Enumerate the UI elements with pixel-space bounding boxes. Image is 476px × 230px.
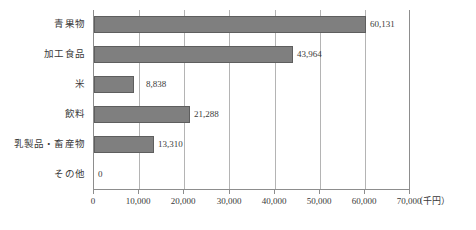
- bar-row: 13,310: [94, 130, 409, 160]
- tick-mark: [229, 190, 230, 194]
- category-label-kakoshokuhin: 加工食品: [0, 49, 85, 59]
- tick-mark: [138, 190, 139, 194]
- bar-kome: [94, 76, 134, 93]
- tick-mark: [319, 190, 320, 194]
- x-tick-label-20000: 20,000: [171, 195, 196, 207]
- bar-kakoshokuhin: [94, 46, 293, 63]
- x-tick-label-0: 0: [91, 195, 96, 207]
- bar-value-sonota: 0: [94, 167, 103, 182]
- bar-value-kakoshokuhin: 43,964: [293, 47, 322, 62]
- x-tick-label-10000: 10,000: [126, 195, 151, 207]
- plot-area: 60,131 43,964 8,838 21,288 13,310 0: [93, 10, 410, 190]
- category-label-seikabutsu: 青果物: [0, 19, 85, 29]
- bar-row: 21,288: [94, 100, 409, 130]
- tick-mark: [409, 190, 410, 194]
- bar-value-inryo: 21,288: [190, 107, 219, 122]
- bar-row: 0: [94, 160, 409, 190]
- x-tick-label-50000: 50,000: [307, 195, 332, 207]
- tick-mark: [364, 190, 365, 194]
- bar-inryo: [94, 106, 190, 123]
- x-tick-label-40000: 40,000: [262, 195, 287, 207]
- bar-value-nyuseihin: 13,310: [154, 137, 183, 152]
- tick-mark: [93, 190, 94, 194]
- bar-chart: 青果物 加工食品 米 飲料 乳製品・畜産物 その他 60,131 43,964 …: [0, 0, 476, 230]
- bar-nyuseihin: [94, 136, 154, 153]
- category-label-kome: 米: [0, 79, 85, 89]
- bar-value-seikabutsu: 60,131: [366, 17, 395, 32]
- x-axis-unit-label: （千円）: [414, 195, 450, 207]
- tick-mark: [274, 190, 275, 194]
- bar-row: 60,131: [94, 10, 409, 40]
- bar-row: 43,964: [94, 40, 409, 70]
- tick-mark: [183, 190, 184, 194]
- x-tick-label-30000: 30,000: [217, 195, 242, 207]
- bar-row: 8,838: [94, 70, 409, 100]
- category-label-nyuseihin: 乳製品・畜産物: [0, 139, 85, 149]
- bar-seikabutsu: [94, 16, 366, 33]
- category-axis-labels: 青果物 加工食品 米 飲料 乳製品・畜産物 その他: [0, 10, 89, 190]
- x-axis: 0 10,000 20,000 30,000 40,000 50,000 60,…: [93, 190, 410, 220]
- bar-value-kome: 8,838: [142, 77, 166, 92]
- category-label-inryo: 飲料: [0, 109, 85, 119]
- category-label-sonota: その他: [0, 169, 85, 179]
- x-tick-label-60000: 60,000: [352, 195, 377, 207]
